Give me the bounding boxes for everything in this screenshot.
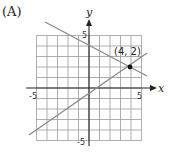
y-axis-label: y	[85, 6, 93, 19]
intersection-label: (4, 2)	[114, 46, 141, 57]
x-tick-min: -5	[29, 92, 37, 101]
y-axis-arrow-icon	[86, 19, 92, 26]
coordinate-plane: x y -5 5 5 -5 (4, 2)	[0, 0, 171, 157]
intersection-point	[128, 65, 133, 70]
y-tick-min: -5	[77, 138, 85, 147]
x-axis-arrow-icon	[150, 85, 157, 91]
y-tick-max: 5	[82, 31, 87, 40]
x-axis-label: x	[158, 82, 165, 95]
x-tick-max: 5	[137, 92, 142, 101]
